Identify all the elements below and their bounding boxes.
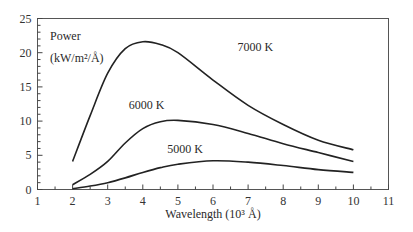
y-tick-label: 0 xyxy=(26,183,32,197)
x-tick-label: 5 xyxy=(175,194,181,208)
y-tick-label: 25 xyxy=(20,12,32,26)
x-tick-label: 10 xyxy=(347,194,359,208)
x-tick-label: 3 xyxy=(105,194,111,208)
x-tick-label: 6 xyxy=(210,194,216,208)
curve-labels: 7000 K6000 K5000 K xyxy=(129,40,274,156)
x-tick-label: 7 xyxy=(245,194,251,208)
x-tick-label: 11 xyxy=(383,194,395,208)
x-tick-label: 4 xyxy=(140,194,146,208)
y-tick-label: 5 xyxy=(26,148,32,162)
x-tick-label: 8 xyxy=(280,194,286,208)
x-tick-label: 1 xyxy=(35,194,41,208)
curve-6000k xyxy=(73,120,354,184)
blackbody-power-chart: 1234567891011 0510152025 7000 K6000 K500… xyxy=(0,0,413,232)
x-tick-label: 9 xyxy=(315,194,321,208)
x-tick-label: 2 xyxy=(70,194,76,208)
y-tick-label: 10 xyxy=(20,114,32,128)
x-axis-ticks: 1234567891011 xyxy=(35,185,395,208)
y-tick-label: 20 xyxy=(20,46,32,60)
curves xyxy=(73,42,354,189)
y-axis-label-line1: Power xyxy=(50,29,81,43)
curve-label: 6000 K xyxy=(129,98,165,112)
y-axis-ticks: 0510152025 xyxy=(20,12,43,197)
curve-label: 5000 K xyxy=(167,142,203,156)
y-axis-label-line2: (kW/m²/Å) xyxy=(50,51,104,65)
y-tick-label: 15 xyxy=(20,80,32,94)
curve-7000k xyxy=(73,42,354,162)
plot-frame xyxy=(38,19,389,190)
x-axis-label: Wavelength (10³ Å) xyxy=(165,207,260,221)
curve-label: 7000 K xyxy=(238,40,274,54)
